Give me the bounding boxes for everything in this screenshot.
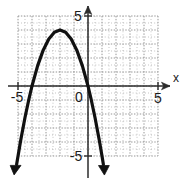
origin-label: 0: [75, 89, 83, 105]
graph-canvas: -5055-5x: [0, 0, 187, 185]
y-tick-label-neg5: -5: [70, 148, 83, 164]
x-tick-label-neg5: -5: [11, 89, 24, 105]
curve-arrowhead: [99, 166, 110, 176]
curve-arrowhead: [10, 165, 21, 175]
y-tick-label-5: 5: [74, 8, 82, 24]
coordinate-plane-figure: -5055-5x: [0, 0, 187, 185]
x-tick-label-5: 5: [154, 90, 162, 106]
x-axis-name-label: x: [173, 71, 179, 85]
